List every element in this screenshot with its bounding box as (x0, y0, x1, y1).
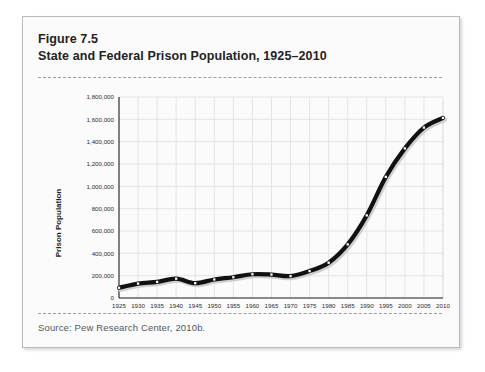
figure-title: State and Federal Prison Population, 192… (38, 48, 442, 65)
x-axis-tick-labels: 1925193019351940194519501955196019651970… (112, 302, 450, 309)
data-point-marker (251, 273, 253, 275)
source-note: Source: Pew Research Center, 2010b. (38, 322, 205, 333)
x-tick-label: 1975 (303, 302, 317, 309)
data-point-marker (156, 281, 158, 283)
x-tick-label: 1960 (246, 302, 260, 309)
series-dropshadow (121, 120, 445, 290)
y-tick-label: 800,000 (92, 205, 115, 212)
x-tick-label: 1950 (207, 302, 221, 309)
data-point-marker (194, 282, 196, 284)
data-point-marker (366, 214, 368, 216)
y-tick-label: 1,600,000 (86, 116, 114, 123)
figure-number: Figure 7.5 (38, 31, 442, 48)
chart-region: Prison Population 0200,000400,000600,000… (31, 83, 453, 309)
data-point-marker (232, 276, 234, 278)
divider-bottom (38, 313, 442, 314)
data-point-marker (213, 278, 215, 280)
data-point-marker (270, 273, 272, 275)
y-tick-label: 200,000 (92, 272, 115, 279)
x-tick-label: 1945 (188, 302, 202, 309)
data-point-marker (404, 147, 406, 149)
figure-card: Figure 7.5 State and Federal Prison Popu… (22, 16, 460, 348)
horizontal-gridlines (119, 97, 443, 276)
data-point-marker (442, 117, 444, 119)
data-point-marker (308, 270, 310, 272)
y-axis-tick-labels: 0200,000400,000600,000800,0001,000,0001,… (86, 93, 114, 301)
vertical-gridlines (138, 97, 443, 298)
x-tick-label: 1965 (265, 302, 279, 309)
x-tick-label: 2000 (398, 302, 412, 309)
x-tick-label: 2005 (417, 302, 431, 309)
x-tick-label: 1955 (226, 302, 240, 309)
divider-top (38, 77, 442, 78)
x-tick-label: 1930 (131, 302, 145, 309)
x-tick-label: 1995 (379, 302, 393, 309)
data-point-marker (289, 275, 291, 277)
x-tick-label: 1940 (169, 302, 183, 309)
series-data-markers (118, 117, 444, 289)
y-tick-label: 0 (111, 294, 115, 301)
data-point-marker (137, 282, 139, 284)
x-tick-label: 1980 (322, 302, 336, 309)
x-tick-label: 1970 (284, 302, 298, 309)
y-tick-label: 1,400,000 (86, 138, 114, 145)
y-tick-label: 1,800,000 (86, 93, 114, 100)
figure-title-block: Figure 7.5 State and Federal Prison Popu… (38, 31, 442, 65)
y-tick-label: 1,000,000 (86, 183, 114, 190)
data-point-marker (347, 243, 349, 245)
x-tick-label: 1925 (112, 302, 126, 309)
y-tick-label: 1,200,000 (86, 160, 114, 167)
x-tick-label: 1935 (150, 302, 164, 309)
y-axis-title: Prison Population (54, 189, 63, 258)
line-chart: Prison Population 0200,000400,000600,000… (31, 83, 453, 309)
y-tick-label: 400,000 (92, 250, 115, 257)
data-point-marker (328, 262, 330, 264)
data-point-marker (175, 278, 177, 280)
x-tick-label: 2010 (436, 302, 450, 309)
series-line (119, 118, 443, 288)
x-tick-label: 1985 (341, 302, 355, 309)
y-tick-label: 600,000 (92, 227, 115, 234)
data-point-marker (423, 126, 425, 128)
data-point-marker (118, 287, 120, 289)
x-tick-label: 1990 (360, 302, 374, 309)
data-point-marker (385, 176, 387, 178)
